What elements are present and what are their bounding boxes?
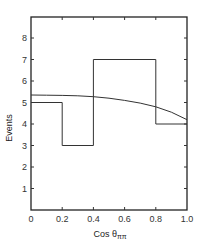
histogram-chart: 00.20.40.60.81.0 12345678 Events Cos θππ: [0, 0, 202, 246]
y-tick-label: 7: [22, 55, 27, 65]
x-tick-labels: 00.20.40.60.81.0: [28, 214, 193, 224]
x-tick-label: 1.0: [181, 214, 194, 224]
y-tick-labels: 12345678: [22, 33, 27, 194]
x-axis-label-subscript: ππ: [117, 233, 127, 240]
y-axis-label: Events: [4, 114, 14, 142]
y-tick-label: 2: [22, 162, 27, 172]
histogram-steps: [31, 60, 187, 146]
x-tick-label: 0: [28, 214, 33, 224]
plot-frame: [31, 17, 187, 210]
x-axis-label: Cos θππ: [93, 229, 126, 240]
x-tick-label: 0.4: [87, 214, 100, 224]
y-tick-label: 8: [22, 33, 27, 43]
y-tick-label: 5: [22, 98, 27, 108]
y-tick-label: 3: [22, 141, 27, 151]
fit-curve: [31, 95, 187, 120]
x-tick-label: 0.8: [150, 214, 163, 224]
y-tick-label: 6: [22, 76, 27, 86]
y-tick-label: 1: [22, 184, 27, 194]
x-tick-label: 0.6: [118, 214, 131, 224]
x-axis-label-main: Cos θ: [93, 229, 117, 239]
y-tick-label: 4: [22, 119, 27, 129]
axis-ticks: [31, 17, 187, 210]
x-tick-label: 0.2: [56, 214, 69, 224]
